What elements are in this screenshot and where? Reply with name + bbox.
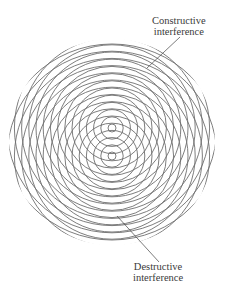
wave-ring — [7, 51, 217, 261]
source-1-rings — [0, 2, 228, 255]
wave-ring — [94, 110, 131, 147]
wave-ring — [0, 2, 228, 255]
source-2-rings — [0, 30, 228, 283]
wave-ring — [101, 117, 123, 139]
wave-ring — [79, 123, 145, 189]
interference-diagram — [0, 0, 228, 293]
constructive-label-line1: Constructive — [152, 15, 206, 26]
wave-ring — [29, 73, 195, 239]
wave-ring — [101, 145, 123, 167]
wave-ring — [79, 95, 145, 161]
constructive-label-line2: interference — [152, 26, 206, 37]
wave-ring — [0, 30, 228, 283]
wave-ring — [94, 138, 131, 175]
destructive-label-line2: interference — [133, 272, 183, 283]
destructive-interference-label: Destructive interference — [133, 261, 183, 283]
wave-rings — [0, 2, 228, 283]
wave-ring — [29, 45, 195, 211]
destructive-label-line1: Destructive — [133, 261, 183, 272]
wave-ring — [7, 23, 217, 233]
constructive-interference-label: Constructive interference — [152, 15, 206, 37]
